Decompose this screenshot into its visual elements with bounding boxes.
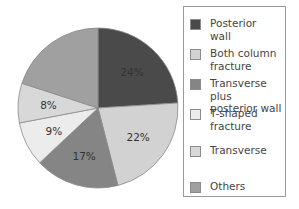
legend-swatch <box>190 49 201 60</box>
legend-label: Transverse <box>210 144 286 157</box>
legend-swatch <box>190 109 201 120</box>
legend-swatch <box>190 182 201 193</box>
legend-label: T-shaped fracture <box>210 107 286 132</box>
legend-swatch <box>190 79 201 90</box>
slice-data-label: 8% <box>40 99 57 111</box>
legend-item-t-shaped-fracture: T-shaped fracture <box>190 107 286 132</box>
legend-swatch <box>190 19 201 30</box>
legend-item-posterior-wall: Posterior wall <box>190 17 286 42</box>
slice-data-label: 9% <box>45 125 62 137</box>
slice-data-label: 22% <box>126 131 149 143</box>
legend-label: Others <box>210 180 286 193</box>
legend: Posterior wall Both column fracture Tran… <box>183 6 286 197</box>
slice-data-label: 17% <box>72 150 95 162</box>
legend-item-transverse: Transverse <box>190 144 286 157</box>
legend-item-others: Others <box>190 180 286 193</box>
legend-label: Both column fracture <box>210 47 286 72</box>
legend-item-both-column-fracture: Both column fracture <box>190 47 286 72</box>
slice-data-label: 24% <box>120 66 143 78</box>
pie-chart: 24%22%17%9%8% <box>0 0 180 209</box>
legend-label: Posterior wall <box>210 17 286 42</box>
legend-swatch <box>190 146 201 157</box>
